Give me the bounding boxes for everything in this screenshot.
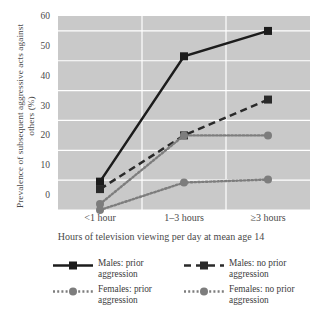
legend-label: Females: no prior aggression <box>225 284 314 305</box>
legend-swatch-dashed-square <box>183 259 225 272</box>
data-point-marker <box>264 131 272 139</box>
legend-label: Males: no prior aggression <box>225 258 314 279</box>
legend-item-males-no-prior[interactable]: Males: no prior aggression <box>183 258 314 279</box>
legend-item-females-no-prior[interactable]: Females: no prior aggression <box>183 284 314 305</box>
legend-swatch-dotted-circle <box>52 285 94 298</box>
y-tick-label: 50 <box>20 41 50 51</box>
data-point-marker <box>180 131 188 139</box>
legend-label: Males: prior aggression <box>94 258 183 279</box>
data-point-marker <box>264 96 272 104</box>
data-point-marker <box>96 185 104 193</box>
line-chart-figure: Prevalence of subsequent aggressive acts… <box>0 0 322 313</box>
data-point-marker <box>264 176 272 184</box>
legend-label: Females: prior aggression <box>94 284 183 305</box>
data-point-marker <box>96 178 104 186</box>
plot-canvas <box>58 16 310 210</box>
legend-item-females-prior[interactable]: Females: prior aggression <box>52 284 183 305</box>
x-axis-title: Hours of television viewing per day at m… <box>0 231 322 242</box>
legend-swatch-solid-square <box>52 259 94 272</box>
x-tick-label: <1 hour <box>58 212 142 230</box>
y-tick-label: 20 <box>20 130 50 140</box>
chart-legend: Males: prior aggression Males: no prior … <box>52 258 314 310</box>
data-point-marker <box>180 52 188 60</box>
plot-area-wrapper <box>58 16 310 210</box>
legend-item-males-prior[interactable]: Males: prior aggression <box>52 258 183 279</box>
y-tick-label: 60 <box>20 11 50 21</box>
data-point-marker <box>264 27 272 35</box>
legend-swatch-dotted-circle <box>183 285 225 298</box>
x-tick-label: ≥3 hours <box>226 212 310 230</box>
y-tick-label: 40 <box>20 71 50 81</box>
x-tick-label: 1–3 hours <box>142 212 226 230</box>
y-tick-label: 10 <box>20 160 50 170</box>
x-axis-tick-labels: <1 hour 1–3 hours ≥3 hours <box>58 212 310 230</box>
y-tick-label: 30 <box>20 101 50 111</box>
data-point-marker <box>180 179 188 187</box>
y-tick-label: 0 <box>20 190 50 200</box>
y-axis-tick-labels: 60 50 40 30 20 10 0 <box>20 16 54 210</box>
